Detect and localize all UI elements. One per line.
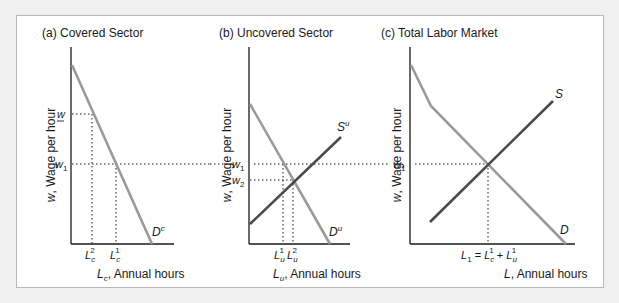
- panel-b-ylabel: w, Wage per hour: [220, 108, 234, 202]
- panel-b-tick-lu2: Lu2: [287, 246, 298, 264]
- panel-a-tick-lc1: Lc1: [110, 246, 120, 264]
- panel-c-tick-l1: L1 = Lc1 + Lu1: [461, 246, 517, 264]
- panel-b-supply-curve: [250, 137, 341, 224]
- panel-a-demand-curve: [72, 65, 152, 244]
- panel-c-supply-curve: [430, 101, 553, 222]
- panel-a-tick-lc2: Lc2: [85, 246, 95, 264]
- panel-a-title: (a) Covered Sector: [42, 26, 143, 40]
- panel-b-demand-label: Du: [329, 224, 343, 239]
- panel-c-title: (c) Total Labor Market: [381, 26, 498, 40]
- panel-b-demand-curve: [250, 104, 330, 244]
- panel-a-xlabel: Lc, Annual hours: [97, 267, 184, 283]
- panel-b-supply-label: Su: [337, 119, 350, 134]
- panel-covered-sector: (a) Covered Sector w, Wage per hour Dc w…: [42, 26, 210, 283]
- panel-b-xlabel: Lu, Annual hours: [273, 267, 361, 283]
- panel-total-labor-market: (c) Total Labor Market w, Wage per hour …: [381, 26, 587, 281]
- panel-b-title: (b) Uncovered Sector: [219, 26, 333, 40]
- panel-c-demand-label: D: [560, 223, 569, 237]
- panel-a-demand-label: Dc: [152, 224, 165, 239]
- panel-uncovered-sector: (b) Uncovered Sector w, Wage per hour Du…: [210, 26, 388, 283]
- panel-a-ylabel: w, Wage per hour: [44, 108, 58, 202]
- panel-c-ylabel: w, Wage per hour: [390, 108, 404, 202]
- labor-market-figure: (a) Covered Sector w, Wage per hour Dc w…: [0, 0, 619, 303]
- panel-c-xlabel: L, Annual hours: [504, 267, 587, 281]
- panel-c-supply-label: S: [555, 87, 563, 101]
- panel-a-tick-wmin: w: [57, 108, 66, 120]
- panel-b-tick-lu1: Lu1: [274, 246, 285, 264]
